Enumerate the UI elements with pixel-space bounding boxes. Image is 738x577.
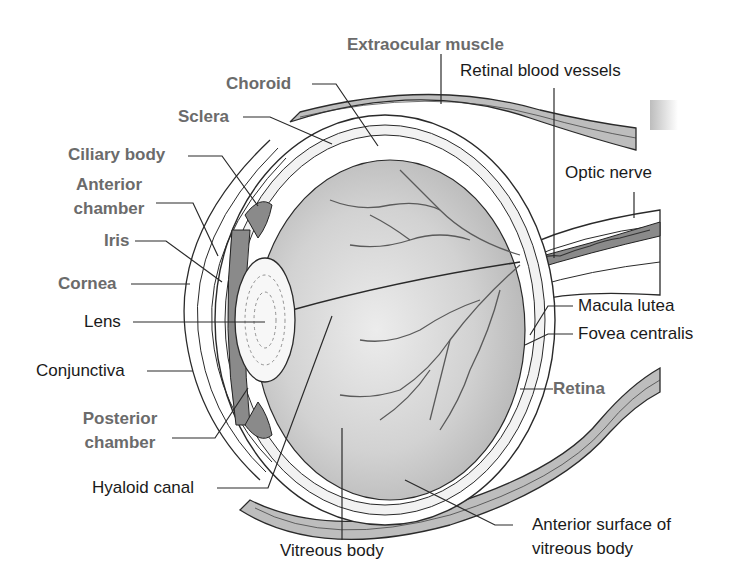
label-retinal-blood-vessels: Retinal blood vessels: [460, 62, 621, 80]
label-anterior-chamber-line1: Anterior: [64, 176, 154, 194]
label-conjunctiva: Conjunctiva: [36, 362, 125, 380]
label-optic-nerve: Optic nerve: [565, 164, 652, 182]
label-ciliary-body: Ciliary body: [68, 146, 165, 164]
label-sclera: Sclera: [178, 108, 229, 126]
label-choroid: Choroid: [226, 75, 291, 93]
lens-shape: [235, 258, 295, 382]
label-cornea: Cornea: [58, 275, 117, 293]
label-hyaloid-canal: Hyaloid canal: [92, 479, 194, 497]
label-retina: Retina: [553, 380, 605, 398]
label-macula-lutea: Macula lutea: [578, 297, 674, 315]
label-lens: Lens: [84, 313, 121, 331]
label-posterior-chamber-line1: Posterior: [72, 410, 168, 428]
vitreous-body-shape: [255, 160, 525, 500]
label-anterior-chamber-line2: chamber: [64, 200, 154, 218]
label-extraocular-muscle: Extraocular muscle: [347, 36, 504, 54]
label-posterior-chamber-line2: chamber: [72, 434, 168, 452]
label-iris: Iris: [104, 232, 130, 250]
label-fovea-centralis: Fovea centralis: [578, 325, 693, 343]
label-anterior-surface-line2: vitreous body: [532, 540, 633, 558]
label-vitreous-body: Vitreous body: [280, 542, 384, 560]
label-anterior-surface-line1: Anterior surface of: [532, 516, 671, 534]
eye-anatomy-diagram: Extraocular muscle Retinal blood vessels…: [0, 0, 738, 577]
